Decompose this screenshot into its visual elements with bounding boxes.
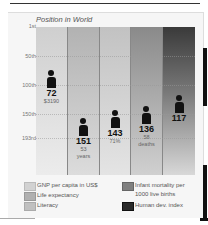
legend-hdi: Human dev. index [135,202,183,208]
person-icon [141,106,151,124]
legend-swatch-literacy [24,202,36,211]
sub-infant-2: deaths [131,141,162,148]
rank-hdi: 117 [163,113,195,123]
legend-swatch-infant [122,182,134,191]
y-tick-193rd: 193rd [8,135,36,141]
rank-life: 151 [68,136,99,146]
person-icon [78,118,88,136]
legend-swatch-hdi [122,202,134,211]
rank-literacy: 143 [100,128,130,138]
sub-life-1: 53 [68,146,99,153]
sub-literacy: 71% [100,138,130,145]
legend-swatch-gnp [24,182,36,191]
legend-infant-1: Infant mortality per [135,182,185,188]
legend-literacy: Literacy [37,202,58,208]
person-icon [110,110,120,128]
bottom-rule [0,218,35,219]
page-edge-bar [203,165,207,220]
legend-swatch-life [24,192,36,201]
rank-infant: 136 [131,124,162,134]
legend-life: Life expectancy [37,192,79,198]
bar-infant-mortality [131,27,163,175]
legend-gnp: GNP per capita in US$ [37,182,98,188]
y-tick-150th: 150th [8,111,36,117]
gridline-50th [36,56,195,57]
chart-title: Position in World [36,15,92,24]
page-edge-bar [203,48,207,106]
sub-life-2: years [68,153,99,160]
top-rule [10,3,200,4]
sub-infant-1: 58 [131,134,162,141]
sub-gnp: $3190 [36,98,67,105]
y-tick-50th: 50th [8,53,36,59]
person-icon [46,70,56,88]
gridline-100th [36,85,195,86]
rank-gnp: 72 [36,88,67,98]
y-tick-100th: 100th [8,82,36,88]
person-icon [174,95,184,113]
bar-literacy [100,27,131,175]
page-edge-corner [200,218,208,221]
y-tick-1st: 1st [8,23,36,29]
legend-infant-2: 1000 live births [135,191,175,197]
